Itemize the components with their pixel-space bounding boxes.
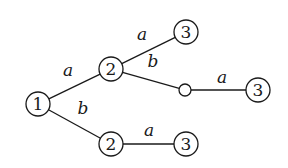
edge-labels: ababaa [63,24,227,140]
node-label: 2 [106,59,117,79]
node-3: 3 [174,132,198,156]
edge-n2a-nEmpty [123,72,180,88]
edge-label: a [217,67,227,87]
edge-label: a [63,60,73,80]
node-label: 3 [181,22,192,42]
node-3: 3 [246,78,270,102]
edge-label: a [137,24,147,44]
node-3: 3 [174,20,198,44]
node-label: 3 [253,80,264,100]
node-circle [179,84,191,96]
edge-label: a [144,120,154,140]
node-label: 3 [181,134,192,154]
tree-diagram: 122333 ababaa [0,0,288,168]
edge-label: b [148,51,159,71]
node-2: 2 [99,132,123,156]
node-1: 1 [26,92,50,116]
node-2: 2 [99,57,123,81]
node-label: 2 [106,134,117,154]
node-empty [179,84,191,96]
edge-label: b [78,98,89,118]
edge-n1-n2b [49,110,101,138]
node-label: 1 [33,94,44,114]
edge-n1-n2a [49,74,100,99]
